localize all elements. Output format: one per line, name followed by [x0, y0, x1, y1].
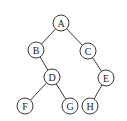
- edge-C-E: [92, 58, 101, 72]
- tree-node-F: F: [17, 98, 33, 114]
- node-label: E: [103, 73, 109, 84]
- tree-node-B: B: [28, 42, 44, 58]
- tree-node-A: A: [53, 15, 69, 31]
- node-label: G: [66, 101, 73, 112]
- tree-node-E: E: [98, 70, 114, 86]
- edge-A-C: [67, 29, 83, 45]
- edge-D-G: [56, 84, 66, 99]
- edge-A-B: [41, 29, 55, 44]
- node-label: F: [22, 101, 28, 112]
- tree-node-H: H: [82, 98, 98, 114]
- tree-node-G: G: [62, 98, 78, 114]
- edge-D-F: [30, 83, 46, 100]
- tree-node-C: C: [80, 43, 96, 59]
- node-label: H: [86, 101, 93, 112]
- edge-B-D: [40, 57, 48, 70]
- edge-E-H: [94, 85, 102, 99]
- tree-node-D: D: [44, 69, 60, 85]
- node-label: D: [48, 72, 55, 83]
- node-label: A: [57, 18, 65, 29]
- binary-tree-diagram: ABCDEFGH: [0, 0, 127, 121]
- tree-edges: [30, 29, 102, 100]
- node-label: C: [85, 46, 92, 57]
- node-label: B: [33, 45, 40, 56]
